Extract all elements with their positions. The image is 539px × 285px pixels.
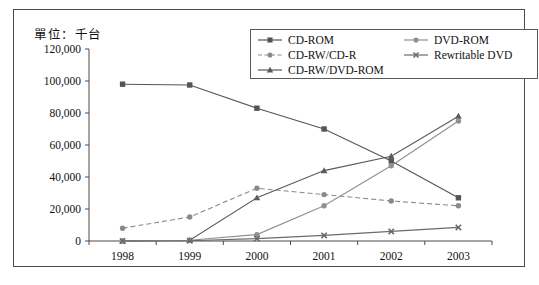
- chart-frame: 單位：千台 CD-ROMCD-RW/CD-RCD-RW/DVD-ROM DVD-…: [13, 9, 525, 267]
- data-point-marker: [388, 153, 395, 159]
- chart-series-group: [119, 82, 462, 244]
- x-tick-label: 1998: [111, 250, 134, 262]
- data-point-marker: [120, 226, 125, 231]
- data-point-marker: [389, 163, 394, 168]
- y-axis-tick-labels: 020,00040,00060,00080,000100,000120,000: [44, 43, 82, 247]
- data-point-marker: [455, 113, 462, 119]
- y-tick-label: 0: [75, 235, 81, 247]
- data-point-marker: [321, 192, 326, 197]
- data-point-marker: [389, 158, 394, 163]
- y-tick-label: 20,000: [49, 203, 81, 216]
- data-point-marker: [187, 82, 192, 87]
- series-cd-rom: [120, 82, 461, 201]
- data-point-marker: [254, 186, 259, 191]
- y-tick-label: 40,000: [49, 171, 81, 184]
- x-tick-label: 1999: [178, 250, 201, 262]
- data-point-marker: [254, 106, 259, 111]
- data-point-marker: [389, 198, 394, 203]
- x-tick-label: 2000: [245, 250, 268, 262]
- data-point-marker: [187, 214, 192, 219]
- chart-axes: [85, 49, 492, 245]
- series-dvd-rom: [120, 118, 461, 243]
- data-point-marker: [321, 203, 326, 208]
- y-tick-label: 60,000: [49, 139, 81, 152]
- data-point-marker: [456, 203, 461, 208]
- y-tick-label: 80,000: [49, 107, 81, 120]
- data-point-marker: [456, 118, 461, 123]
- x-axis-tick-labels: 199819992000200120022003: [111, 250, 470, 262]
- data-point-marker: [321, 126, 326, 131]
- y-tick-label: 100,000: [44, 75, 82, 88]
- x-tick-label: 2001: [313, 250, 336, 262]
- series-cd-rw-dvd-rom: [119, 113, 462, 244]
- data-point-marker: [120, 82, 125, 87]
- data-point-marker: [456, 195, 461, 200]
- line-chart-plot: 020,00040,00060,00080,000100,000120,000 …: [14, 10, 526, 268]
- x-tick-label: 2002: [380, 250, 403, 262]
- x-tick-label: 2003: [447, 250, 470, 262]
- series-cd-rw-cd-r: [120, 186, 461, 231]
- y-tick-label: 120,000: [44, 43, 82, 56]
